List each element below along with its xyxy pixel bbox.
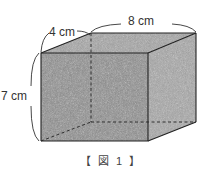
width-label: 8 cm (128, 14, 154, 28)
front-face (41, 53, 148, 141)
cuboid-diagram (0, 0, 213, 175)
figure-caption: 【 図 1 】 (80, 152, 142, 168)
height-label: 7 cm (1, 89, 27, 103)
depth-label: 4 cm (49, 25, 75, 39)
